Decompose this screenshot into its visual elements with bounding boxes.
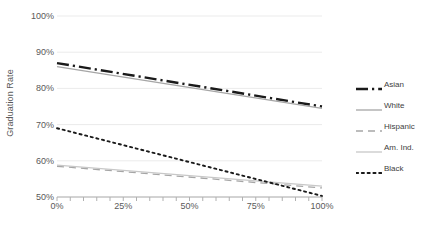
legend-item-am-ind[interactable]: Am. Ind. xyxy=(356,137,428,158)
x-tick-label: 50% xyxy=(180,201,198,211)
legend-swatch-asian xyxy=(356,80,382,90)
y-tick-label: 50% xyxy=(22,192,54,202)
y-axis-tick-labels: 50%60%70%80%90%100% xyxy=(18,16,54,197)
x-tick-label: 100% xyxy=(310,201,333,211)
legend-label-white: White xyxy=(384,101,404,110)
y-tick-label: 70% xyxy=(22,120,54,130)
x-tick-label: 75% xyxy=(247,201,265,211)
y-tick-label: 100% xyxy=(22,11,54,21)
x-tick-label: 0% xyxy=(50,201,63,211)
series-line-black xyxy=(57,128,322,196)
y-axis-title-text: Graduation Rate xyxy=(5,69,15,137)
y-tick-label: 90% xyxy=(22,47,54,57)
legend-swatch-black xyxy=(356,164,382,174)
legend-label-am-ind: Am. Ind. xyxy=(384,143,414,152)
legend-label-asian: Asian xyxy=(384,80,404,89)
legend-item-black[interactable]: Black xyxy=(356,158,428,179)
x-axis-tick-labels: 0%25%50%75%100% xyxy=(57,201,322,219)
legend-item-asian[interactable]: Asian xyxy=(356,74,428,95)
series-line-hispanic xyxy=(57,166,322,188)
y-tick-label: 80% xyxy=(22,83,54,93)
series-line-am-ind xyxy=(57,165,322,186)
series-line-asian xyxy=(57,63,322,106)
legend-swatch-am-ind xyxy=(356,143,382,153)
y-tick-label: 60% xyxy=(22,156,54,166)
data-series-layer xyxy=(57,16,322,197)
legend-item-white[interactable]: White xyxy=(356,95,428,116)
plot-area xyxy=(57,16,322,197)
legend-label-hispanic: Hispanic xyxy=(384,122,415,131)
graduation-rate-line-chart: Graduation Rate 50%60%70%80%90%100% 0%25… xyxy=(0,0,429,233)
x-tick-label: 25% xyxy=(114,201,132,211)
series-line-white xyxy=(57,67,322,109)
legend-item-hispanic[interactable]: Hispanic xyxy=(356,116,428,137)
legend-swatch-white xyxy=(356,101,382,111)
y-axis-title: Graduation Rate xyxy=(0,0,20,205)
legend-label-black: Black xyxy=(384,164,404,173)
legend-swatch-hispanic xyxy=(356,122,382,132)
chart-legend: AsianWhiteHispanicAm. Ind.Black xyxy=(356,74,428,179)
